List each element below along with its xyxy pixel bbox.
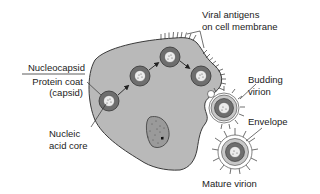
label-envelope: Envelope: [248, 116, 288, 127]
label-protein-coat-line1: Protein coat: [20, 76, 83, 87]
label-viral-antigens-line2: on cell membrane: [202, 21, 278, 32]
label-budding-line2: virion: [248, 86, 271, 97]
nucleocapsid-2: [130, 66, 150, 86]
label-budding-line1: Budding: [248, 74, 283, 85]
membrane-bud: [208, 91, 215, 98]
label-mature-virion: Mature virion: [202, 178, 257, 189]
label-nucleocapsid: Nucleocapsid: [22, 62, 85, 73]
nucleocapsid-1: [99, 91, 119, 111]
nucleocapsid-3: [160, 47, 180, 67]
label-protein-coat-line2: (capsid): [20, 87, 83, 98]
label-nucleic-acid-line1: Nucleic: [49, 128, 80, 139]
nucleocapsid-4: [191, 66, 211, 86]
mature-virion: [212, 128, 258, 174]
label-nucleic-acid-line2: acid core: [49, 140, 88, 151]
label-viral-antigens-line1: Viral antigens: [202, 9, 259, 20]
